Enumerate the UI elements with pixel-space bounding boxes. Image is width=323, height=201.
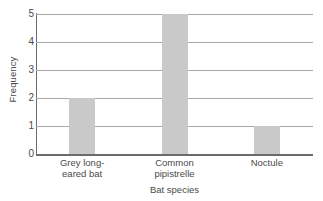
y-axis-tick-labels: 012345: [18, 0, 34, 201]
y-axis-tick-label: 5: [20, 9, 34, 19]
y-axis-tick-label: 4: [20, 37, 34, 47]
y-axis-tick-label: 1: [20, 121, 34, 131]
bar: [69, 98, 95, 154]
y-axis-tick-label: 2: [20, 93, 34, 103]
bar: [162, 14, 188, 154]
x-axis-tick-label: Noctule: [221, 157, 313, 168]
bar: [254, 126, 280, 154]
x-axis-tick-label: Common pipistrelle: [128, 157, 220, 179]
x-axis-tick-label: Grey long- eared bat: [36, 157, 128, 179]
x-axis-title: Bat species: [36, 184, 313, 195]
bar-chart: Frequency 012345 Grey long- eared batCom…: [0, 0, 323, 201]
x-axis-line: [36, 154, 313, 156]
y-axis-tick-label: 3: [20, 65, 34, 75]
y-axis-title: Frequency: [7, 40, 18, 120]
plot-area: [36, 14, 313, 154]
x-axis-tick-labels: Grey long- eared batCommon pipistrelleNo…: [36, 157, 313, 183]
y-axis-tick-label: 0: [20, 149, 34, 159]
